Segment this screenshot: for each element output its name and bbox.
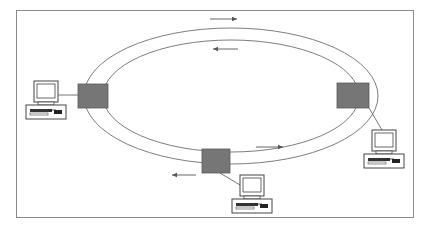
link-line-bottom [220,173,240,185]
ring-network-diagram [0,0,429,229]
switch-box-left [78,84,108,108]
diagram-frame [17,11,414,218]
keyboard-icon [368,158,390,161]
inner-ring-path [103,40,359,152]
computer-icon-bottom [232,175,272,213]
screen-icon [375,133,393,147]
screen-icon [37,84,55,98]
link-line-right [369,108,382,130]
computer-icon-left [26,81,66,119]
ring-switches [78,83,369,173]
computer-icon-right [364,130,404,168]
switch-box-right [337,83,369,108]
outer-ring-path [84,28,378,164]
ring-cable [84,28,378,164]
keyboard-icon [236,203,258,206]
diagram-canvas [0,0,429,229]
switch-box-bottom [202,149,230,173]
screen-icon [243,178,261,192]
keyboard-icon [30,109,52,112]
